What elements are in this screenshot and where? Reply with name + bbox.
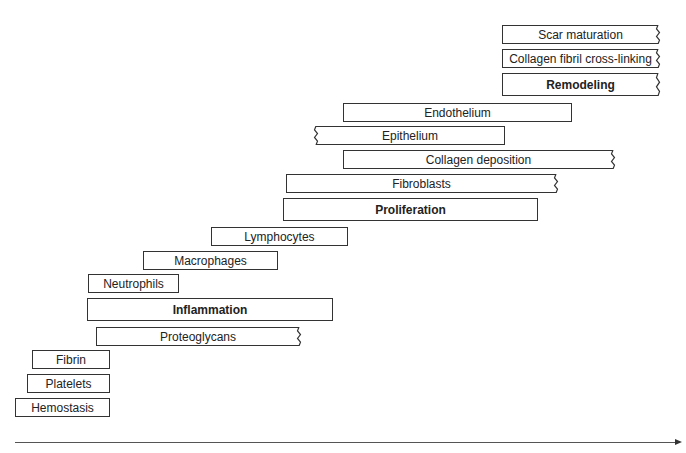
bar-label: Collagen fibril cross-linking xyxy=(509,52,652,66)
process-bar-neutrophils: Neutrophils xyxy=(88,274,179,293)
break-mark-icon xyxy=(296,327,302,346)
bar-label: Proteoglycans xyxy=(160,330,236,344)
bar-label: Neutrophils xyxy=(103,277,164,291)
process-bar-scar-maturation: Scar maturation xyxy=(502,25,658,44)
process-bar-macrophages: Macrophages xyxy=(143,251,278,270)
bar-label: Proliferation xyxy=(375,203,446,217)
bar-label: Scar maturation xyxy=(538,28,623,42)
break-mark-icon xyxy=(655,49,661,68)
bar-label: Fibrin xyxy=(56,353,86,367)
bar-label: Inflammation xyxy=(173,303,248,317)
time-axis xyxy=(15,442,677,443)
phase-bar-remodeling: Remodeling xyxy=(502,73,658,96)
break-mark-icon xyxy=(655,73,661,96)
bar-label: Hemostasis xyxy=(31,401,94,415)
bar-label: Fibroblasts xyxy=(392,177,451,191)
phase-bar-proliferation: Proliferation xyxy=(283,198,538,221)
process-bar-collagen-deposition: Collagen deposition xyxy=(343,150,613,169)
bar-label: Platelets xyxy=(45,377,91,391)
process-bar-epithelium: Epithelium xyxy=(316,126,505,145)
process-bar-collagen-fibril-cross-linking: Collagen fibril cross-linking xyxy=(502,49,658,68)
process-bar-hemostasis: Hemostasis xyxy=(15,398,110,417)
break-mark-icon xyxy=(313,126,319,145)
bar-label: Macrophages xyxy=(174,254,247,268)
bar-label: Epithelium xyxy=(382,129,438,143)
bar-label: Lymphocytes xyxy=(244,230,314,244)
process-bar-fibrin: Fibrin xyxy=(32,350,110,369)
process-bar-endothelium: Endothelium xyxy=(343,103,572,122)
process-bar-fibroblasts: Fibroblasts xyxy=(286,174,556,193)
phase-bar-inflammation: Inflammation xyxy=(87,298,333,321)
break-mark-icon xyxy=(553,174,559,193)
process-bar-lymphocytes: Lymphocytes xyxy=(211,227,348,246)
break-mark-icon xyxy=(655,25,661,44)
bar-label: Remodeling xyxy=(546,78,615,92)
break-mark-icon xyxy=(610,150,616,169)
bar-label: Endothelium xyxy=(424,106,491,120)
axis-arrow-icon xyxy=(675,439,682,445)
process-bar-platelets: Platelets xyxy=(27,374,110,393)
bar-label: Collagen deposition xyxy=(426,153,531,167)
process-bar-proteoglycans: Proteoglycans xyxy=(96,327,299,346)
